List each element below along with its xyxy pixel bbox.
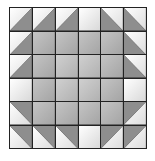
quilt-tile: [10, 32, 32, 55]
quilt-tile: [101, 126, 123, 149]
quilt-tile: [33, 126, 55, 149]
quilt-tile: [56, 79, 78, 102]
quilt-tile: [79, 8, 101, 31]
quilt-tile: [101, 32, 123, 55]
quilt-tile: [101, 8, 123, 31]
quilt-tile: [124, 32, 146, 55]
quilt-tile: [56, 8, 78, 31]
quilt-tile: [124, 79, 146, 102]
quilt-tile: [10, 102, 32, 125]
quilt-tile: [10, 79, 32, 102]
quilt-tile: [79, 102, 101, 125]
quilt-tile: [101, 79, 123, 102]
quilt-tile: [79, 55, 101, 78]
quilt-tile: [33, 8, 55, 31]
quilt-tile: [101, 102, 123, 125]
quilt-tile: [33, 79, 55, 102]
quilt-grid: [9, 7, 147, 149]
quilt-tile: [101, 55, 123, 78]
quilt-tile: [56, 102, 78, 125]
quilt-tile: [10, 8, 32, 31]
quilt-tile: [10, 126, 32, 149]
quilt-tile: [124, 8, 146, 31]
quilt-tile: [124, 102, 146, 125]
quilt-tile: [124, 55, 146, 78]
quilt-tile: [33, 102, 55, 125]
quilt-tile: [33, 55, 55, 78]
quilt-tile: [56, 55, 78, 78]
quilt-tile: [124, 126, 146, 149]
quilt-tile: [10, 55, 32, 78]
quilt-tile: [33, 32, 55, 55]
quilt-tile: [79, 79, 101, 102]
quilt-tile: [79, 32, 101, 55]
quilt-tile: [79, 126, 101, 149]
quilt-tile: [56, 32, 78, 55]
quilt-tile: [56, 126, 78, 149]
